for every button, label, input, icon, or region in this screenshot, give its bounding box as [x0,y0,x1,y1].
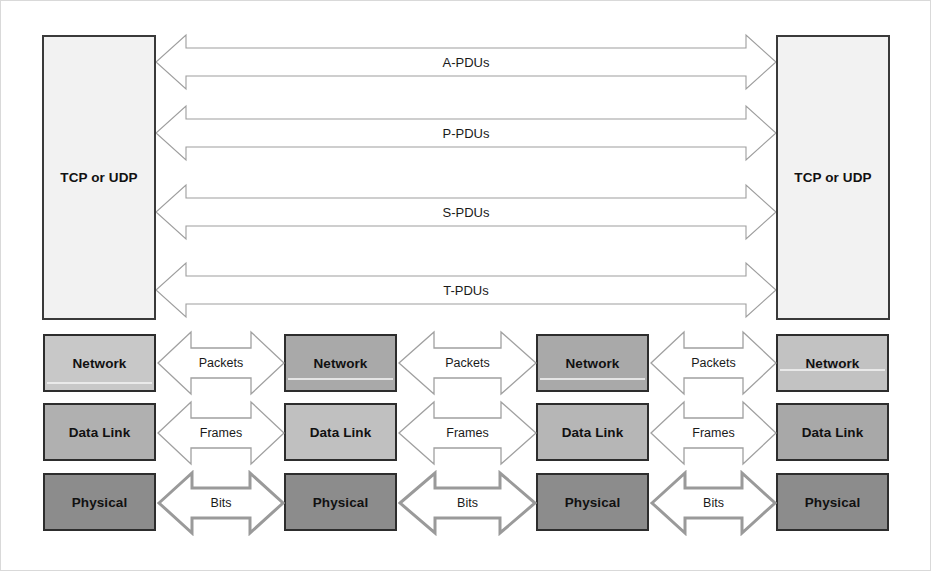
layer-box-col-1-network: Network [43,334,156,392]
seg-label-gap-1-packets: Packets [157,350,285,376]
layer-box-col-4-network: Network [776,334,889,392]
layer-box-col-4-data-link: Data Link [776,403,889,461]
seg-label-gap-1-frames: Frames [157,420,285,446]
pdu-label-a-pdus: A-PDUs [156,49,776,75]
seg-label-gap-2-bits-text: Bits [457,496,478,510]
pdu-label-t-pdus-text: T-PDUs [443,283,489,298]
pdu-label-p-pdus: P-PDUs [156,120,776,146]
layer-box-col-1-physical-label: Physical [72,495,128,510]
seg-label-gap-2-frames: Frames [398,420,537,446]
pdu-label-t-pdus: T-PDUs [156,277,776,303]
seg-label-gap-3-frames-text: Frames [692,426,734,440]
layer-box-highlight [780,369,885,371]
diagram-canvas: TCP or UDP TCP or UDP A-PDUs P-PDUs S-PD… [0,0,931,571]
layer-box-col-4-data-link-label: Data Link [802,425,864,440]
layer-box-col-3-data-link: Data Link [536,403,649,461]
seg-label-gap-2-packets: Packets [398,350,537,376]
layer-box-highlight [540,378,645,380]
seg-label-gap-2-packets-text: Packets [445,356,489,370]
layer-box-col-1-data-link-label: Data Link [69,425,131,440]
seg-label-gap-3-bits: Bits [650,490,777,516]
pdu-label-s-pdus: S-PDUs [156,199,776,225]
seg-label-gap-1-bits-text: Bits [211,496,232,510]
layer-box-col-2-physical-label: Physical [313,495,369,510]
layer-box-col-2-network-label: Network [314,356,368,371]
seg-label-gap-1-packets-text: Packets [199,356,243,370]
transport-box-right-label: TCP or UDP [794,170,871,185]
layer-box-highlight [288,378,393,380]
seg-label-gap-3-frames: Frames [650,420,777,446]
pdu-label-p-pdus-text: P-PDUs [443,126,490,141]
layer-box-col-1-network-label: Network [73,356,127,371]
layer-box-col-2-data-link-label: Data Link [310,425,372,440]
pdu-label-a-pdus-text: A-PDUs [443,55,490,70]
layer-box-col-2-physical: Physical [284,473,397,531]
seg-label-gap-3-bits-text: Bits [703,496,724,510]
layer-box-col-3-physical-label: Physical [565,495,621,510]
layer-box-col-1-data-link: Data Link [43,403,156,461]
layer-box-highlight [47,382,152,384]
transport-box-left: TCP or UDP [42,35,156,320]
transport-box-right: TCP or UDP [776,35,890,320]
layer-box-col-3-physical: Physical [536,473,649,531]
seg-label-gap-2-bits: Bits [398,490,537,516]
layer-box-col-4-physical-label: Physical [805,495,861,510]
layer-box-col-2-data-link: Data Link [284,403,397,461]
pdu-label-s-pdus-text: S-PDUs [443,205,490,220]
seg-label-gap-3-packets-text: Packets [691,356,735,370]
layer-box-col-4-physical: Physical [776,473,889,531]
transport-box-left-label: TCP or UDP [60,170,137,185]
layer-box-col-3-network: Network [536,334,649,392]
seg-label-gap-1-frames-text: Frames [200,426,242,440]
layer-box-col-1-physical: Physical [43,473,156,531]
seg-label-gap-1-bits: Bits [157,490,285,516]
layer-box-col-3-network-label: Network [566,356,620,371]
layer-box-col-3-data-link-label: Data Link [562,425,624,440]
seg-label-gap-2-frames-text: Frames [446,426,488,440]
seg-label-gap-3-packets: Packets [650,350,777,376]
layer-box-col-2-network: Network [284,334,397,392]
